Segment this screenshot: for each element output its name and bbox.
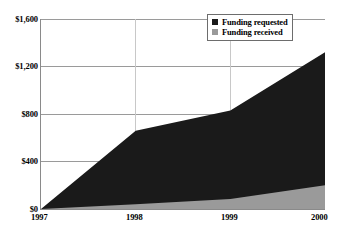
y-tick-400: $400 (2, 157, 38, 166)
funding-area-chart: $1,600 $1,200 $800 $400 $0 1997 1998 199… (0, 0, 339, 241)
legend-item-funding-requested: Funding requested (212, 17, 288, 27)
y-axis-labels: $1,600 $1,200 $800 $400 $0 (0, 0, 38, 241)
x-tick-1999: 1999 (221, 213, 238, 222)
x-axis-line (40, 209, 325, 210)
square-gray-icon (212, 29, 218, 35)
y-tick-1200: $1,200 (2, 62, 38, 71)
square-black-icon (212, 19, 218, 25)
y-tick-800: $800 (2, 110, 38, 119)
legend-label-funding-received: Funding received (222, 27, 283, 37)
series-layer (41, 19, 325, 209)
area-funding-requested (41, 52, 325, 209)
legend-item-funding-received: Funding received (212, 27, 288, 37)
legend-label-funding-requested: Funding requested (222, 17, 288, 27)
y-axis-line (40, 19, 41, 210)
x-tick-2000: 2000 (311, 213, 328, 222)
chart-legend: Funding requested Funding received (207, 14, 293, 41)
y-tick-1600: $1,600 (2, 15, 38, 24)
x-tick-1997: 1997 (31, 213, 48, 222)
x-tick-1998: 1998 (126, 213, 143, 222)
